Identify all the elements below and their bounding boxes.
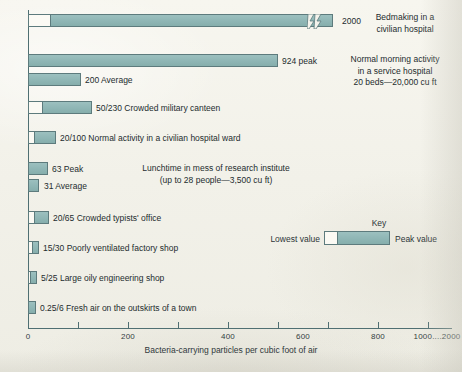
note-lunchtime: Lunchtime in mess of research institute(…	[112, 163, 320, 186]
annotation-line: 20 beds—20,000 cu ft	[332, 77, 458, 89]
annotation-line: Lunchtime in mess of research institute	[112, 163, 320, 175]
bar	[28, 131, 56, 144]
note-service-hospital: Normal morning activityin a service hosp…	[332, 54, 458, 89]
annotation-line: (up to 28 people—3,500 cu ft)	[112, 175, 320, 187]
bar	[28, 54, 278, 67]
bar-lowest-value-segment	[29, 15, 51, 26]
legend-title: Key	[276, 218, 456, 228]
chart-legend: Key Lowest value Peak value	[276, 218, 456, 258]
annotation-line: Bedmaking in a	[350, 12, 460, 24]
bar-peak-value-segment	[35, 212, 48, 223]
bar-peak-value-segment	[33, 242, 38, 253]
legend-lowest-value-label: Lowest value	[270, 234, 320, 244]
bar-value-label: 20/100 Normal activity in a civilian hos…	[60, 133, 240, 143]
x-axis-tick-label: 600	[296, 332, 310, 341]
legend-peak-value-label: Peak value	[395, 234, 437, 244]
x-axis-tick-label: 200	[121, 332, 135, 341]
x-axis-tick-label: 800	[371, 332, 385, 341]
bar-peak-value-segment	[43, 102, 91, 113]
annotation-line: in a service hospital	[332, 66, 458, 78]
x-axis-tick	[278, 322, 279, 328]
x-axis-tick	[128, 322, 129, 328]
bar	[28, 14, 333, 27]
bar-peak-value-segment	[31, 272, 36, 283]
x-axis-tick-label: 0	[26, 332, 31, 341]
x-axis-tick	[78, 322, 79, 328]
x-axis-tick	[28, 322, 29, 328]
bar	[28, 241, 39, 254]
bar-value-label: 15/30 Poorly ventilated factory shop	[43, 243, 178, 253]
bar	[28, 162, 48, 175]
plot-area: 02004006008001000....2000 Bacteria-carry…	[0, 0, 462, 372]
bar-value-label: 20/65 Crowded typists' office	[53, 213, 161, 223]
x-axis-tick-label: 400	[221, 332, 235, 341]
x-axis-line	[28, 328, 452, 329]
bar	[28, 179, 39, 192]
bar	[28, 211, 49, 224]
legend-swatch-peak-segment	[338, 232, 389, 244]
x-axis-tick	[378, 322, 379, 328]
bar	[28, 73, 81, 86]
chart-page: 02004006008001000....2000 Bacteria-carry…	[0, 0, 462, 372]
bar	[28, 271, 37, 284]
bar-value-label: 0.25/6 Fresh air on the outskirts of a t…	[40, 303, 196, 313]
bar-value-label: 924 peak	[282, 56, 317, 66]
bar-peak-value-segment	[35, 132, 55, 143]
bar	[28, 101, 92, 114]
x-axis-tick	[328, 322, 329, 328]
bar-value-label: 63 Peak	[52, 164, 83, 174]
x-axis-tick	[178, 322, 179, 328]
bar	[28, 301, 36, 314]
x-axis-tick	[428, 322, 429, 328]
annotation-line: Normal morning activity	[332, 54, 458, 66]
legend-swatch-low-segment	[325, 232, 338, 244]
x-axis-tick-label: 1000....2000	[414, 332, 461, 341]
x-axis-title: Bacteria-carrying particles per cubic fo…	[0, 345, 462, 355]
bar-lowest-value-segment	[29, 102, 43, 113]
x-axis-tick	[228, 322, 229, 328]
bar-value-label: 50/230 Crowded military canteen	[96, 103, 220, 113]
bar-value-label: 31 Average	[44, 181, 87, 191]
bar-value-label: 200 Average	[85, 75, 133, 85]
annotation-line: civilian hospital	[350, 24, 460, 36]
legend-swatch	[324, 231, 390, 245]
bar-value-label: 5/25 Large oily engineering shop	[41, 273, 164, 283]
bar-peak-value-segment	[51, 15, 332, 26]
note-bedmaking: Bedmaking in acivilian hospital	[350, 12, 460, 35]
